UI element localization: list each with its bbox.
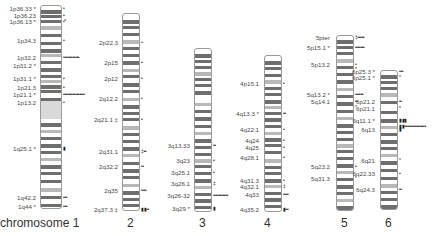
chromosome-band <box>337 164 353 168</box>
band-label: 2q37.3 ‡ <box>94 206 118 213</box>
band-label: 3q26-32 <box>167 192 190 199</box>
chromosome-band <box>337 66 353 69</box>
chromosome-band <box>265 125 281 128</box>
locus-marker: ••• <box>63 194 67 200</box>
chromosome-band <box>195 139 211 143</box>
chromosome-band <box>41 80 61 83</box>
band-label: 1p21.3 <box>17 84 36 91</box>
locus-marker: • <box>141 116 142 122</box>
chromosome-band <box>41 34 61 37</box>
chromosome-band <box>337 157 353 160</box>
chromosome-band <box>41 180 61 183</box>
chromosome-band <box>265 198 281 202</box>
band-label: 3q25.1 <box>171 169 190 176</box>
band-label: 4p15.1 <box>240 80 259 87</box>
chromosome-band <box>195 159 211 163</box>
locus-marker: • <box>283 137 284 143</box>
chromosome-band <box>41 85 61 89</box>
chromosome-band <box>41 188 61 192</box>
chromosome-band <box>195 193 211 196</box>
chromosome-caption: chromosome 1 <box>0 216 79 230</box>
chromosome-band <box>265 172 281 175</box>
chromosome-band <box>265 179 281 183</box>
locus-marker: • <box>141 59 142 65</box>
chromosome-3-ideogram <box>194 48 212 212</box>
chromosome-band <box>337 124 353 128</box>
chromosome-band <box>337 88 353 91</box>
chromosome-band <box>41 10 61 14</box>
band-label: 6p21.1 <box>356 105 375 112</box>
chromosome-band <box>123 98 139 101</box>
band-label: 4q28.1 <box>240 154 259 161</box>
locus-marker: • <box>141 95 142 101</box>
chromosome-band <box>41 20 61 23</box>
locus-marker: ••••••• <box>355 44 364 50</box>
locus-marker: • <box>63 99 64 105</box>
band-label: 2p22.3 <box>99 39 118 46</box>
band-label: 4q24 <box>245 137 259 144</box>
band-label: 1p31.2 * <box>13 62 36 69</box>
locus-marker: * <box>399 74 401 80</box>
chromosome-band <box>337 59 353 63</box>
chromosome-band <box>123 133 139 136</box>
chromosome-band <box>265 74 281 77</box>
band-label: 6p25.1 * <box>352 74 375 81</box>
chromosome-band <box>41 90 61 93</box>
chromosome-2-ideogram <box>122 13 140 211</box>
chromosome-band <box>123 184 139 187</box>
band-label: 2q32.2 <box>99 163 118 170</box>
band-label: 5pter <box>316 34 330 41</box>
chromosome-band <box>337 73 353 76</box>
chromosome-band <box>41 61 61 64</box>
chromosome-band <box>381 75 397 79</box>
chromosome-band <box>41 204 61 207</box>
band-label: 1p13.2 <box>17 99 36 106</box>
chromosome-band <box>195 110 211 113</box>
chromosome-caption: 2 <box>127 216 134 230</box>
band-label: 2q35 <box>104 187 118 194</box>
band-label: 2q21.1 ‡ <box>94 116 118 123</box>
band-label: 4q25 <box>245 144 259 151</box>
chromosome-band <box>123 191 139 195</box>
chromosome-band <box>265 144 281 147</box>
chromosome-band <box>123 47 139 50</box>
chromosome-band <box>337 110 353 113</box>
band-label: 3q29 * <box>172 205 190 212</box>
locus-marker: •• <box>399 186 402 192</box>
chromosome-band <box>41 49 61 53</box>
locus-marker: ▮ <box>63 145 66 151</box>
chromosome-band <box>265 132 281 135</box>
chromosome-band <box>381 184 397 188</box>
chromosome-6-ideogram <box>380 70 398 210</box>
locus-marker: ••• <box>63 203 67 209</box>
chromosome-band <box>195 91 211 95</box>
chromosome-band <box>381 191 397 194</box>
chromosome-band <box>337 117 353 120</box>
chromosome-band <box>265 151 281 154</box>
chromosome-band <box>195 84 211 87</box>
chromosome-band <box>123 126 139 130</box>
locus-marker: •• <box>283 110 286 116</box>
locus-marker: •• <box>213 142 216 148</box>
locus-marker: •• <box>141 163 144 169</box>
chromosome-band <box>195 125 211 128</box>
chromosome-band <box>265 192 281 195</box>
locus-marker: ‡••••• <box>355 34 364 40</box>
chromosome-band <box>337 199 353 202</box>
chromosome-band <box>195 60 211 63</box>
chromosome-band <box>195 66 211 69</box>
chromosome-band <box>41 196 61 199</box>
chromosome-band <box>337 150 353 153</box>
chromosome-band <box>123 26 139 29</box>
chromosome-band <box>123 140 139 143</box>
chromosome-band <box>41 137 61 140</box>
chromosome-band <box>381 133 397 136</box>
band-label: 6q24.3 <box>356 186 375 193</box>
chromosome-band <box>123 169 139 173</box>
chromosome-band <box>337 192 353 195</box>
chromosome-band <box>195 165 211 168</box>
locus-marker: ••••••••••• <box>213 192 228 198</box>
band-label: 3q26.1 <box>171 180 190 187</box>
band-label: 2p15 <box>104 59 118 66</box>
band-label: 5p15.1 * <box>307 44 330 51</box>
